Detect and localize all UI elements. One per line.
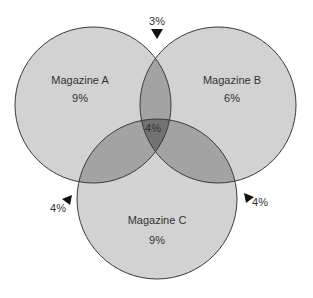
label-magazine-a: Magazine A bbox=[51, 74, 109, 86]
label-magazine-c: Magazine C bbox=[128, 214, 187, 226]
venn-diagram: Magazine A 9% Magazine B 6% Magazine C 9… bbox=[0, 0, 313, 298]
arrow-down-icon bbox=[151, 29, 163, 39]
value-magazine-a-only: 9% bbox=[72, 92, 88, 104]
value-bc: 4% bbox=[252, 196, 268, 208]
value-magazine-c-only: 9% bbox=[149, 234, 165, 246]
value-magazine-b-only: 6% bbox=[224, 92, 240, 104]
value-ac: 4% bbox=[50, 202, 66, 214]
value-ab: 3% bbox=[149, 15, 165, 27]
label-magazine-b: Magazine B bbox=[203, 74, 261, 86]
value-abc: 4% bbox=[145, 122, 161, 134]
